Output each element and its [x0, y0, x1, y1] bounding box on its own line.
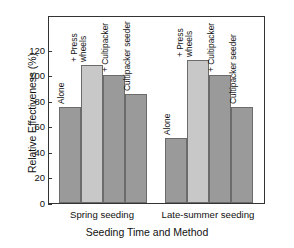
bar: [59, 107, 81, 203]
bar-label: Cultipacker seeder: [229, 34, 238, 104]
bar: [81, 65, 103, 203]
bar: [231, 107, 253, 203]
y-tick-label: 120: [19, 46, 45, 56]
bar: [103, 75, 125, 203]
y-tick-label: 60: [19, 122, 45, 132]
y-tick-label: 0: [19, 199, 45, 209]
y-tick-label: 20: [19, 173, 45, 183]
y-tick-mark: [48, 204, 52, 205]
bar-label: Alone: [57, 83, 66, 104]
y-tick-mark: [48, 51, 52, 52]
bar-label: + Press wheels: [176, 5, 194, 57]
bar-label: + Cultipacker: [101, 23, 110, 72]
plot-area: Alone+ Press wheels+ CultipackerCultipac…: [48, 16, 265, 204]
y-tick-label: 80: [19, 97, 45, 107]
bar-label: + Press wheels: [70, 10, 88, 62]
x-group-label: Late-summer seeding: [138, 209, 278, 220]
bars-layer: Alone+ Press wheels+ CultipackerCultipac…: [49, 17, 264, 203]
y-tick-mark: [48, 153, 52, 154]
bar: [165, 138, 187, 203]
bar: [187, 60, 209, 203]
y-tick-mark: [48, 127, 52, 128]
bar: [125, 94, 147, 203]
y-tick-mark: [48, 102, 52, 103]
bar-label: Alone: [163, 113, 172, 134]
y-tick-label: 40: [19, 148, 45, 158]
y-tick-mark: [48, 178, 52, 179]
y-tick-mark: [48, 76, 52, 77]
bar-chart-figure: Relative Effectiveness (%) 0204060801001…: [0, 0, 294, 248]
y-tick-label: 100: [19, 71, 45, 81]
bar-label: + Cultipacker: [207, 23, 216, 72]
x-axis-title: Seeding Time and Method: [0, 226, 294, 238]
bar-label: Cultipacker seeder: [123, 21, 132, 91]
